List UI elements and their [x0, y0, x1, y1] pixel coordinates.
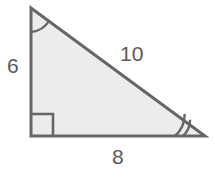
vertical-leg-label: 6 [7, 55, 19, 76]
right-triangle-diagram [0, 0, 215, 186]
triangle-shape [31, 8, 205, 136]
horizontal-leg-label: 8 [112, 146, 124, 167]
hypotenuse-label: 10 [120, 43, 143, 64]
geometry-figure-container: 6 10 8 [0, 0, 215, 186]
